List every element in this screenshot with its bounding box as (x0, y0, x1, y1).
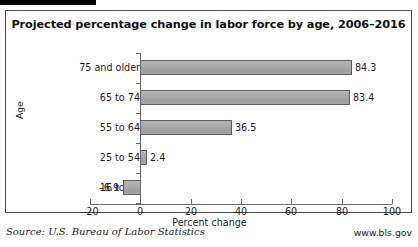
y-axis-tick (136, 143, 141, 144)
x-axis-tick (241, 199, 242, 204)
chart-row: 65 to 74 83.4 (6, 83, 413, 113)
source-note: Source: U.S. Bureau of Labor Statistics (6, 226, 205, 237)
y-axis-tick (136, 53, 141, 54)
x-axis-tick-label: 100 (383, 206, 401, 217)
x-axis-tick-label: –20 (81, 206, 98, 217)
bar-value-label: 36.5 (235, 122, 256, 133)
zero-axis-line (140, 53, 141, 205)
bar-value-label: 2.4 (150, 152, 165, 163)
category-label: 65 to 74 (100, 92, 140, 103)
x-axis-line (90, 204, 392, 205)
chart-row: 25 to 54 2.4 (6, 143, 413, 173)
chart-row: 75 and older 84.3 (6, 53, 413, 83)
y-axis-tick (136, 113, 141, 114)
chart-row: 16 to 24 –6.9 (6, 173, 413, 203)
redaction-bar (0, 0, 96, 5)
bar-value-label: 83.4 (353, 92, 374, 103)
x-axis-tick-label: 20 (185, 206, 197, 217)
plot-area: Age 75 and older 84.3 65 to 74 83.4 55 t… (6, 11, 413, 214)
bar-55-to-64 (140, 120, 232, 135)
bar-16-to-24 (123, 180, 141, 195)
y-axis-tick (136, 83, 141, 84)
x-axis-tick (140, 199, 141, 204)
bar-25-to-54 (140, 150, 147, 165)
category-label: 25 to 54 (100, 152, 140, 163)
bar-value-label: 84.3 (355, 62, 376, 73)
bar-65-to-74 (140, 90, 350, 105)
x-axis-tick (291, 199, 292, 204)
x-axis-tick (191, 199, 192, 204)
chart-figure: Projected percentage change in labor for… (5, 10, 412, 213)
category-label: 75 and older (79, 62, 140, 73)
y-axis-tick (136, 173, 141, 174)
x-axis-tick-label: 80 (336, 206, 348, 217)
x-axis-tick-label: 60 (285, 206, 297, 217)
chart-row: 55 to 64 36.5 (6, 113, 413, 143)
x-axis-tick-label: 40 (235, 206, 247, 217)
source-url: www.bls.gov (354, 227, 412, 238)
x-axis-tick (392, 199, 393, 204)
category-label: 55 to 64 (100, 122, 140, 133)
x-axis-tick (342, 199, 343, 204)
x-axis-tick (90, 199, 91, 204)
bar-75-and-older (140, 60, 352, 75)
x-axis-tick-label: 0 (137, 206, 143, 217)
bar-value-label: –6.9 (93, 182, 119, 193)
